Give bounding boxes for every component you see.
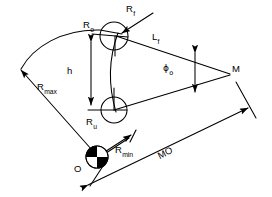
label-r-min: Rmin (115, 145, 133, 158)
label-point-o-text: O (74, 163, 81, 174)
label-r-max: Rmax (37, 82, 57, 95)
label-l-f-base: L (152, 31, 157, 42)
label-r-u: Ru (86, 117, 97, 130)
diagram-canvas: Ro Rf Lf M ϕo h Rmax Ru O Rmin MO (0, 0, 272, 197)
label-point-m-text: M (232, 63, 240, 74)
rmin-witness-tick (130, 130, 136, 142)
label-r-f: Rf (126, 4, 135, 17)
outer-arc-upper (21, 30, 122, 69)
lf-line (116, 36, 230, 74)
label-r-max-sub: max (44, 88, 57, 95)
label-r-u-base: R (86, 116, 93, 127)
lower-chord-to-m (114, 75, 230, 110)
label-r-max-base: R (37, 81, 44, 92)
label-r-o-base: R (83, 19, 90, 30)
label-r-f-sub: f (133, 10, 135, 17)
label-r-min-base: R (115, 144, 122, 155)
upper-circle-horizontal-axis (92, 34, 128, 37)
label-h-text: h (67, 65, 72, 76)
label-r-u-sub: u (93, 123, 97, 130)
origin-point-marker (86, 146, 108, 168)
label-phi-o-sub: o (169, 69, 173, 77)
label-point-m: M (232, 64, 240, 74)
label-r-f-base: R (126, 3, 133, 14)
label-r-o-sub: o (90, 26, 94, 33)
label-point-o: O (74, 164, 81, 174)
label-phi-o: ϕo (163, 64, 173, 75)
label-r-o: Ro (83, 20, 94, 33)
label-r-min-sub: min (122, 151, 133, 158)
label-l-f: Lf (152, 32, 159, 45)
diagram-vector-layer (0, 0, 272, 197)
label-h: h (67, 66, 72, 76)
mo-witness-left (90, 166, 103, 186)
